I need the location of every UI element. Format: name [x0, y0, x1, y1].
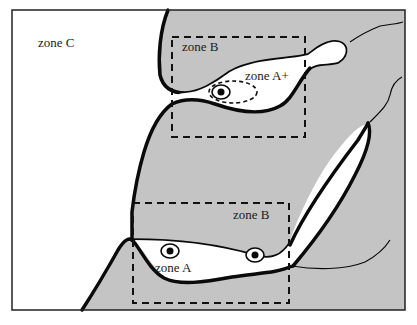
- zone-a-label: zone A: [155, 260, 192, 275]
- cell-nucleus-icon: [212, 85, 230, 99]
- cell-nucleus-icon: [161, 244, 179, 258]
- zone-c-label: zone C: [38, 35, 74, 50]
- zone-diagram: zone C zone B zone A+ zone B zone A: [0, 0, 417, 325]
- zone-a-plus-label: zone A+: [245, 68, 289, 83]
- zone-b-top-label: zone B: [182, 39, 219, 54]
- zone-b-bottom-label: zone B: [233, 207, 270, 222]
- cell-nucleus-icon: [246, 248, 264, 262]
